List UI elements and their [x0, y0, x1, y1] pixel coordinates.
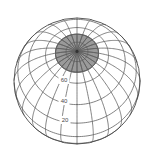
- latitude-label-text: 20: [62, 117, 69, 123]
- north-pole-marker: [75, 50, 78, 53]
- globe-graticule-svg: 604020: [0, 0, 153, 154]
- latitude-label: 20: [60, 116, 71, 124]
- globe-figure: 604020: [0, 0, 153, 154]
- latitude-label-text: 40: [61, 98, 68, 104]
- latitude-label: 40: [59, 97, 70, 105]
- latitude-labels-group: 604020: [59, 76, 71, 124]
- latitude-label: 60: [59, 76, 70, 84]
- latitude-label-text: 60: [61, 77, 68, 83]
